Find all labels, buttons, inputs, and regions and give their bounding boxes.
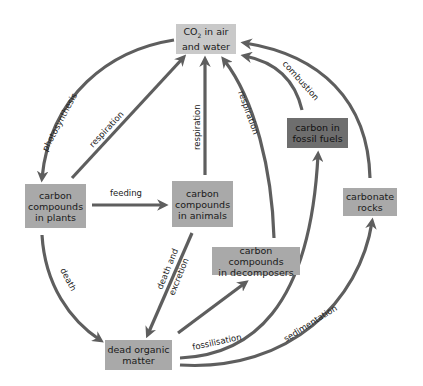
fossilisation-label: fossilisation (191, 332, 242, 352)
decomposers-line2: in decomposers (218, 267, 293, 278)
carbon-cycle-diagram: photosynthesis respiration respiration r… (0, 0, 423, 386)
decomposition-arrow (178, 283, 245, 333)
sedimentation-label: sedimentation (282, 303, 339, 344)
animals-respiration-label: respiration (192, 104, 202, 150)
feeding-label: feeding (110, 188, 142, 198)
carbonate-rocks-node: carbonate rocks (343, 188, 397, 216)
dead-matter-line1: dead organic (107, 344, 169, 355)
plants-line1: carbon (39, 190, 72, 201)
plants-node: carbon compounds in plants (25, 184, 86, 228)
co2-node: CO2 in air and water (176, 24, 236, 54)
co2-line2: and water (182, 41, 230, 52)
animals-line3: in animals (178, 210, 227, 221)
animals-node: carbon compounds in animals (172, 181, 233, 227)
decomposers-line1: carbon compounds (214, 245, 298, 267)
carbonate-rocks-line1: carbonate (346, 191, 394, 202)
plants-respiration-label: respiration (87, 109, 125, 149)
fossil-fuels-node: carbon in fossil fuels (287, 118, 348, 148)
fossil-fuels-line2: fossil fuels (292, 133, 342, 144)
carbonate-rocks-line2: rocks (357, 202, 382, 213)
death-label: death (58, 266, 78, 292)
plants-line3: in plants (35, 212, 76, 223)
fossil-fuels-line1: carbon in (295, 122, 340, 133)
dead-organic-matter-node: dead organic matter (105, 340, 172, 370)
plants-respiration-arrow (72, 58, 183, 178)
decomposers-node: carbon compounds in decomposers (212, 247, 300, 275)
plants-line2: compounds (28, 201, 83, 212)
animals-line2: compounds (175, 199, 230, 210)
decomposers-respiration-label: respiration (236, 89, 261, 135)
animals-line1: carbon (186, 188, 219, 199)
photosynthesis-label: photosynthesis (40, 91, 79, 153)
co2-line1: CO2 in air (183, 26, 228, 41)
dead-matter-line2: matter (122, 355, 154, 366)
